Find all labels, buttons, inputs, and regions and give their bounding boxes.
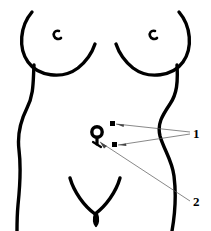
- callout-label-1: 1: [193, 127, 200, 140]
- torso-diagram-svg: [0, 0, 211, 231]
- site-marker-lower: [112, 142, 117, 147]
- figure-container: 1 2: [0, 0, 211, 231]
- site-marker-upper: [110, 121, 115, 126]
- pubic-v-tip: [94, 214, 98, 226]
- callout-label-2: 2: [193, 195, 200, 208]
- figure-background: [0, 0, 211, 231]
